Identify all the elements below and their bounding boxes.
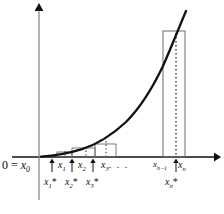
tick-arrow-x1-star — [49, 159, 54, 173]
tick-arrow-x3-star — [90, 159, 95, 173]
rectangle-n — [163, 31, 185, 157]
label-x3-ellipsis: . . . — [109, 159, 129, 170]
label-x2-sub: 2 — [82, 165, 85, 172]
label-x3-star: x3* — [86, 177, 99, 190]
x-axis-arrowhead — [214, 153, 221, 162]
label-x1-star-asterisk: * — [52, 176, 57, 187]
riemann-sum-figure: 0 = x0 x1 x2 x3. . . xn−1 xn x1* x2* x3*… — [0, 0, 224, 214]
label-x1: x1 — [58, 160, 66, 173]
label-x1-star: x1* — [44, 177, 57, 190]
y-axis-arrowhead — [35, 3, 44, 11]
label-x0-text: 0 = — [2, 158, 18, 172]
label-xn-star-asterisk: * — [173, 176, 178, 187]
label-x3-star-asterisk: * — [94, 176, 99, 187]
figure-canvas — [0, 0, 224, 214]
label-xn-sub: n — [182, 165, 185, 172]
function-curve — [41, 11, 186, 157]
sample-dotted-lines — [65, 33, 176, 156]
label-x0: 0 = x0 — [2, 159, 30, 174]
label-xn-star: xn* — [165, 177, 178, 190]
label-xn-minus-1: xn−1 — [153, 160, 167, 172]
label-xn-minus-1-sub: n−1 — [157, 165, 167, 171]
label-x2-star: x2* — [65, 177, 78, 190]
label-x0-sub: 0 — [26, 165, 30, 174]
y-axis — [35, 3, 44, 200]
label-x2-star-asterisk: * — [73, 176, 78, 187]
tick-arrow-x2-star — [69, 159, 74, 173]
label-x1-sub: 1 — [62, 165, 65, 172]
label-x2: x2 — [78, 160, 86, 173]
label-xn: xn — [178, 160, 186, 173]
label-x3: x3. . . — [101, 160, 129, 173]
